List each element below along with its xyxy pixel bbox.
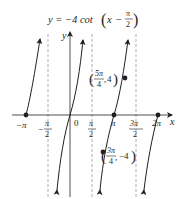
svg-text:y = −4 cot: y = −4 cot	[47, 14, 94, 25]
pt1-den: 4	[97, 80, 101, 89]
tick-neg-half-pi-sign: −	[38, 124, 43, 134]
title-arg-x: x	[106, 14, 112, 25]
x-tick-labels: −π − π 2 0 π 2 π 3π 2 2π	[16, 118, 162, 139]
pt1-y: 4	[107, 74, 112, 84]
pt1-num: 5π	[95, 69, 104, 78]
svg-text:(: (	[101, 148, 106, 165]
title-paren-close: )	[133, 11, 138, 29]
tick-neg-half-pi-num: π	[45, 119, 50, 128]
tangent-graph: y = −4 cot ( x − π 2 ) y x −π − π	[0, 0, 180, 199]
tick-three-half-pi-den: 2	[133, 130, 137, 139]
svg-text:(: (	[89, 71, 94, 88]
zero-pi	[112, 113, 117, 118]
pt2-comma: ,	[115, 152, 117, 162]
tick-origin: 0	[74, 118, 79, 128]
point-5pi4-4	[123, 76, 128, 81]
svg-text:): )	[113, 71, 118, 88]
title-arg-den: 2	[126, 20, 130, 29]
tick-two-pi: 2π	[152, 118, 162, 128]
point-label-5pi4-4: ( 5π 4 , 4 )	[89, 69, 118, 89]
pt2-den: 4	[109, 157, 113, 166]
title-lhs: y = −4 cot	[47, 14, 94, 25]
zero-neg-pi	[24, 113, 29, 118]
pt1-comma: ,	[104, 74, 106, 84]
title-arg-minus: −	[116, 14, 122, 25]
tick-half-pi-num: π	[89, 119, 94, 128]
title-arg-num: π	[126, 9, 130, 18]
title-paren-open: (	[101, 11, 106, 29]
tick-half-pi-den: 2	[89, 130, 93, 139]
x-axis-label: x	[169, 116, 175, 127]
asymptotes	[48, 34, 136, 197]
pt2-y: −4	[119, 151, 129, 161]
tick-pi: π	[111, 118, 116, 128]
svg-text:): )	[131, 148, 136, 165]
tick-three-half-pi-num: 3π	[129, 119, 139, 128]
chart-title: y = −4 cot ( x − π 2 )	[47, 9, 138, 29]
zero-two-pi	[156, 113, 161, 118]
point-label-3pi4-neg4: ( 3π 4 , −4 )	[101, 146, 136, 166]
tick-neg-half-pi-den: 2	[45, 130, 49, 139]
y-axis-label: y	[61, 30, 67, 41]
tick-neg-pi: −π	[16, 120, 27, 130]
curve-branch-1	[26, 39, 40, 115]
